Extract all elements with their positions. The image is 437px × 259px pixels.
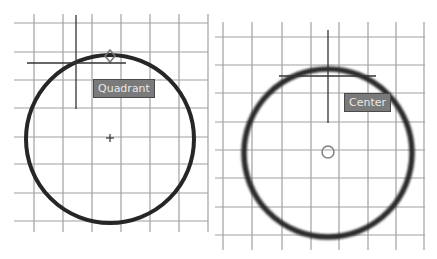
center-snap-marker-icon	[322, 146, 334, 158]
drawing-canvas-center-snap[interactable]: Center	[215, 0, 437, 259]
canvas-graphics	[215, 0, 437, 259]
snap-tooltip-quadrant: Quadrant	[93, 79, 155, 98]
center-plus-icon	[106, 134, 114, 142]
snap-tooltip-center: Center	[344, 93, 391, 112]
canvas-graphics	[0, 0, 215, 259]
drawing-canvas-quadrant-snap[interactable]: Quadrant	[0, 0, 215, 259]
grid	[14, 14, 208, 232]
